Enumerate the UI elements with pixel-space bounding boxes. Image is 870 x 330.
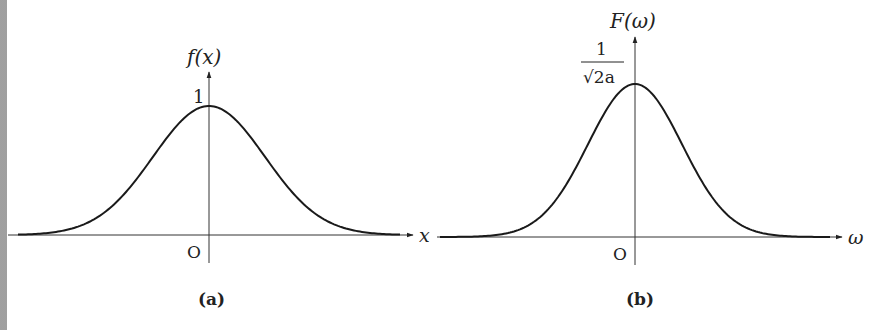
peak-label-numerator: 1: [596, 39, 607, 59]
origin-label: O: [613, 244, 627, 264]
caption-b: (b): [626, 289, 654, 309]
peak-label: 1: [193, 86, 204, 107]
panel-a: f(x) 1 O x (a): [8, 45, 430, 309]
panel-b: F(ω) 1 √2a O ω (b): [437, 9, 864, 309]
x-axis-label: x: [419, 224, 430, 246]
x-axis-label: ω: [848, 226, 864, 248]
origin-label: O: [187, 242, 201, 262]
figure-canvas: f(x) 1 O x (a) F(ω) 1 √2a O ω (b): [0, 0, 870, 330]
peak-label-denominator: √2a: [583, 67, 615, 87]
y-axis-label: F(ω): [609, 9, 656, 33]
caption-a: (a): [198, 289, 225, 309]
y-axis-label: f(x): [185, 45, 221, 69]
